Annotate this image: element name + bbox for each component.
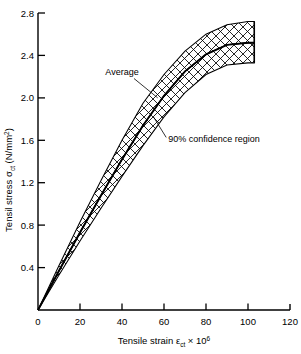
y-tick-label: 2.0 [21, 92, 34, 103]
confidence-band [38, 20, 254, 310]
annotation-confidence-label: 90% confidence region [168, 134, 260, 144]
chart-figure: 2.8 2.4 2.0 1.6 1.2 0.8 0.4 0 20 40 60 8… [0, 0, 301, 354]
y-tick-label: 0.4 [21, 262, 34, 273]
x-axis-label-sup: 6 [207, 335, 211, 342]
x-axis-label-times: × 10 [185, 335, 206, 346]
y-tick-label: 1.2 [21, 177, 34, 188]
x-tick-label: 60 [159, 316, 170, 327]
y-tick-label: 2.8 [21, 8, 34, 19]
chart-svg: 2.8 2.4 2.0 1.6 1.2 0.8 0.4 0 20 40 60 8… [0, 0, 301, 354]
x-axis-label: Tensile strain εct × 106 [118, 335, 211, 348]
y-axis-label-unit: (N/mm [3, 135, 14, 166]
y-axis-label: Tensil stress σct (N/mm2) [3, 128, 16, 232]
annotation-average-label: Average [105, 67, 138, 77]
annotation-confidence-region: 90% confidence region [154, 117, 260, 144]
y-axis-label-close: ) [3, 128, 14, 131]
y-tick-label: 1.6 [21, 135, 34, 146]
x-axis-tick-labels: 0 20 40 60 80 100 120 [35, 316, 298, 327]
y-axis-label-main: Tensil stress [3, 177, 14, 232]
x-tick-label: 80 [201, 316, 212, 327]
x-axis-ticks [80, 304, 248, 311]
x-axis-label-main: Tensile strain [118, 335, 176, 346]
x-tick-label: 0 [35, 316, 40, 327]
x-tick-label: 100 [240, 316, 256, 327]
y-tick-label: 0.8 [21, 220, 34, 231]
y-axis-tick-labels: 2.8 2.4 2.0 1.6 1.2 0.8 0.4 [21, 8, 34, 274]
x-tick-label: 40 [117, 316, 128, 327]
y-tick-label: 2.4 [21, 50, 34, 61]
average-curve [38, 43, 254, 310]
lower-sub-band [38, 43, 254, 310]
x-tick-label: 120 [282, 316, 298, 327]
x-tick-label: 20 [75, 316, 86, 327]
y-axis-ticks [38, 13, 45, 268]
